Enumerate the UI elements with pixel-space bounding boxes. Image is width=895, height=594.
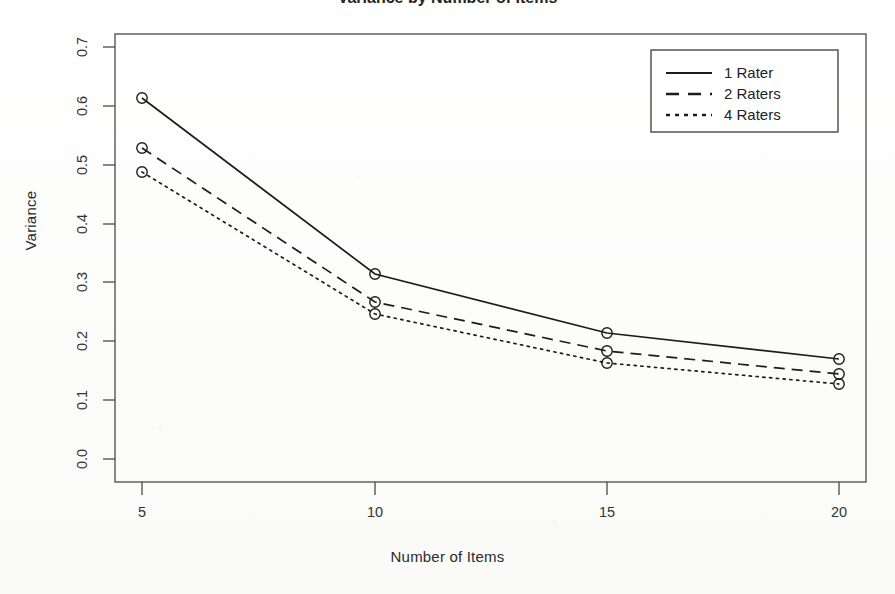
x-tick-label-2: 15 bbox=[585, 504, 629, 520]
legend-label-1-rater: 1 Rater bbox=[724, 64, 773, 81]
y-axis-ticks bbox=[103, 47, 115, 459]
y-tick-label-1: 0.1 bbox=[74, 378, 90, 422]
x-axis-ticks bbox=[142, 482, 839, 495]
y-tick-label-7: 0.7 bbox=[74, 25, 90, 69]
chart-page: Variance by Number of Items bbox=[0, 0, 895, 594]
series-4-raters bbox=[137, 167, 844, 389]
series-line-2-raters bbox=[142, 148, 839, 374]
y-tick-label-5: 0.5 bbox=[74, 143, 90, 187]
legend-label-4-raters: 4 Raters bbox=[724, 106, 781, 123]
series-1-rater bbox=[137, 93, 844, 364]
y-tick-label-0: 0.0 bbox=[74, 437, 90, 481]
y-tick-label-2: 0.2 bbox=[74, 319, 90, 363]
x-tick-label-3: 20 bbox=[817, 504, 861, 520]
series-line-1-rater bbox=[142, 98, 839, 359]
y-axis-title: Variance bbox=[22, 211, 39, 251]
y-tick-label-4: 0.4 bbox=[74, 202, 90, 246]
x-tick-label-1: 10 bbox=[353, 504, 397, 520]
x-tick-label-0: 5 bbox=[120, 504, 164, 520]
series-2-raters bbox=[137, 143, 844, 379]
series-line-4-raters bbox=[142, 172, 839, 384]
x-axis-title: Number of Items bbox=[0, 548, 895, 565]
y-tick-label-3: 0.3 bbox=[74, 260, 90, 304]
legend-label-2-raters: 2 Raters bbox=[724, 85, 781, 102]
y-tick-label-6: 0.6 bbox=[74, 84, 90, 128]
